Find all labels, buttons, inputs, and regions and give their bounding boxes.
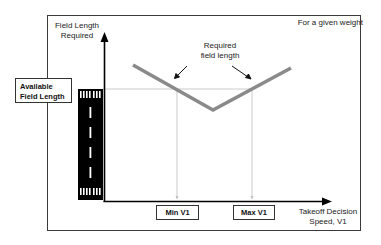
x-axis-label-line-2: Speed, V1 — [293, 217, 363, 227]
required-field-length-curve — [133, 65, 291, 110]
y-axis-label: Field Length Required — [52, 21, 102, 41]
max-v1-box: Max V1 — [233, 205, 275, 220]
x-axis-label-line-1: Takeoff Decision — [293, 207, 363, 217]
x-axis-label: Takeoff Decision Speed, V1 — [293, 207, 363, 227]
x-axis — [104, 198, 333, 206]
max-v1-label: Max V1 — [241, 208, 267, 217]
curve-pointer-arrows — [175, 66, 252, 79]
min-v1-label: Min V1 — [165, 208, 189, 217]
y-axis-label-line-2: Required — [52, 31, 102, 41]
corner-note: For a given weight — [283, 18, 363, 28]
available-label-line-2: Field Length — [20, 92, 71, 102]
min-v1-box: Min V1 — [156, 205, 199, 220]
curve-label-line-2: field length — [190, 51, 250, 61]
y-axis-label-line-1: Field Length — [52, 21, 102, 31]
curve-label-line-1: Required — [190, 41, 250, 51]
guide-lines — [103, 89, 253, 199]
available-field-length-box: Available Field Length — [15, 78, 72, 103]
available-label-line-1: Available — [20, 82, 71, 92]
x-axis-arrowhead-icon — [322, 198, 332, 206]
runway-icon — [78, 89, 103, 200]
curve-label: Required field length — [190, 41, 250, 61]
